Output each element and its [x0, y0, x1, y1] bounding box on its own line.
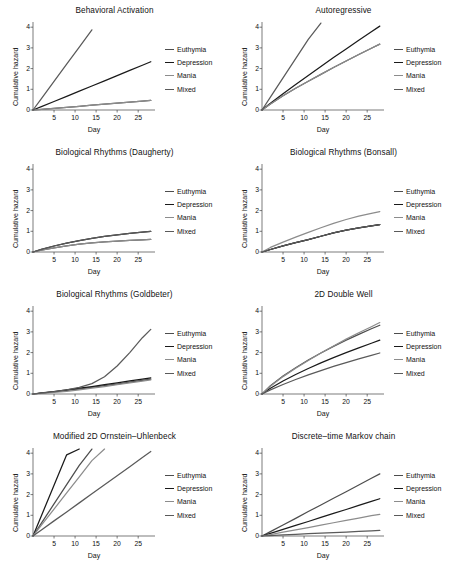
legend-swatch-icon: [165, 62, 174, 63]
x-tick-label: 5: [277, 398, 289, 405]
y-tick-label: 4: [252, 165, 259, 172]
y-tick-label: 2: [252, 349, 259, 356]
legend-swatch-icon: [394, 62, 403, 63]
y-axis-label: Cumulative hazard: [12, 332, 19, 390]
legend-label: Mania: [177, 72, 196, 79]
legend-swatch-icon: [165, 231, 174, 232]
legend-label: Mania: [406, 72, 425, 79]
legend-item-euthymia[interactable]: Euthymia: [394, 330, 441, 337]
legend-swatch-icon: [394, 49, 403, 50]
x-tick-label: 10: [298, 540, 310, 547]
legend-item-mania[interactable]: Mania: [165, 356, 212, 363]
legend-item-euthymia[interactable]: Euthymia: [165, 188, 212, 195]
y-tick-label: 3: [252, 44, 259, 51]
legend-item-mixed[interactable]: Mixed: [394, 512, 441, 519]
series-line: [33, 100, 151, 110]
y-tick-label: 1: [252, 369, 259, 376]
legend: EuthymiaDepressionManiaMixed: [165, 330, 212, 377]
legend-item-depression[interactable]: Depression: [394, 201, 441, 208]
x-axis-label: Day: [33, 268, 155, 275]
series-line: [262, 225, 380, 252]
legend-item-mania[interactable]: Mania: [394, 72, 441, 79]
legend-label: Depression: [177, 201, 212, 208]
x-tick-label: 20: [340, 256, 352, 263]
legend-item-mania[interactable]: Mania: [394, 356, 441, 363]
legend-item-depression[interactable]: Depression: [394, 343, 441, 350]
legend-swatch-icon: [394, 204, 403, 205]
y-axis-label: Cumulative hazard: [12, 474, 19, 532]
legend-item-euthymia[interactable]: Euthymia: [165, 46, 212, 53]
x-tick-label: 20: [111, 540, 123, 547]
legend-swatch-icon: [394, 231, 403, 232]
legend-item-mixed[interactable]: Mixed: [165, 370, 212, 377]
legend-item-euthymia[interactable]: Euthymia: [394, 46, 441, 53]
legend-item-mixed[interactable]: Mixed: [165, 228, 212, 235]
y-tick-label: 3: [23, 186, 30, 193]
legend-item-depression[interactable]: Depression: [165, 201, 212, 208]
legend: EuthymiaDepressionManiaMixed: [394, 188, 441, 235]
legend-item-euthymia[interactable]: Euthymia: [165, 330, 212, 337]
y-tick-label: 3: [23, 470, 30, 477]
x-tick-label: 20: [111, 256, 123, 263]
legend-swatch-icon: [394, 75, 403, 76]
legend-item-mixed[interactable]: Mixed: [165, 512, 212, 519]
x-tick-label: 25: [132, 256, 144, 263]
legend-item-mixed[interactable]: Mixed: [394, 370, 441, 377]
legend-item-depression[interactable]: Depression: [165, 59, 212, 66]
chart-panel: Modified 2D Ornstein–Uhlenbeck0123451015…: [0, 426, 229, 570]
legend-item-mania[interactable]: Mania: [165, 498, 212, 505]
y-tick-label: 4: [252, 307, 259, 314]
legend-item-mania[interactable]: Mania: [394, 214, 441, 221]
legend-item-depression[interactable]: Depression: [394, 485, 441, 492]
legend-swatch-icon: [165, 373, 174, 374]
legend-label: Mania: [177, 214, 196, 221]
y-tick-label: 2: [23, 349, 30, 356]
legend-swatch-icon: [394, 501, 403, 502]
legend: EuthymiaDepressionManiaMixed: [394, 330, 441, 377]
y-tick-label: 4: [252, 449, 259, 456]
chart-panel: 2D Double Well01234510152025DayCumulativ…: [229, 284, 458, 426]
chart-panel: Biological Rhythms (Goldbeter)0123451015…: [0, 284, 229, 426]
legend-label: Mixed: [177, 86, 196, 93]
y-tick-label: 3: [23, 328, 30, 335]
legend-item-depression[interactable]: Depression: [165, 343, 212, 350]
x-tick-label: 10: [298, 398, 310, 405]
legend-item-mixed[interactable]: Mixed: [165, 86, 212, 93]
legend-item-depression[interactable]: Depression: [394, 59, 441, 66]
x-tick-label: 5: [277, 540, 289, 547]
x-tick-label: 20: [340, 540, 352, 547]
legend-item-euthymia[interactable]: Euthymia: [394, 188, 441, 195]
y-tick-label: 3: [252, 328, 259, 335]
x-tick-label: 20: [340, 398, 352, 405]
x-axis-label: Day: [262, 268, 384, 275]
legend-label: Depression: [406, 59, 441, 66]
legend: EuthymiaDepressionManiaMixed: [394, 46, 441, 93]
legend-item-mania[interactable]: Mania: [394, 498, 441, 505]
y-tick-label: 1: [252, 85, 259, 92]
legend-item-mania[interactable]: Mania: [165, 214, 212, 221]
x-tick-label: 15: [90, 114, 102, 121]
x-tick-label: 5: [48, 540, 60, 547]
legend-swatch-icon: [165, 488, 174, 489]
y-tick-label: 4: [23, 165, 30, 172]
legend-item-euthymia[interactable]: Euthymia: [165, 472, 212, 479]
legend-label: Euthymia: [177, 46, 206, 53]
legend-swatch-icon: [394, 373, 403, 374]
y-tick-label: 1: [23, 85, 30, 92]
legend-item-euthymia[interactable]: Euthymia: [394, 472, 441, 479]
legend-item-mixed[interactable]: Mixed: [394, 228, 441, 235]
legend-label: Euthymia: [177, 472, 206, 479]
legend-item-mixed[interactable]: Mixed: [394, 86, 441, 93]
x-tick-label: 15: [319, 114, 331, 121]
x-tick-label: 5: [277, 256, 289, 263]
x-tick-label: 15: [319, 540, 331, 547]
chart-panel: Biological Rhythms (Bonsall)012345101520…: [229, 142, 458, 284]
legend-label: Mania: [406, 214, 425, 221]
legend-label: Mixed: [406, 86, 425, 93]
legend-swatch-icon: [165, 191, 174, 192]
legend-item-mania[interactable]: Mania: [165, 72, 212, 79]
legend-label: Mixed: [177, 512, 196, 519]
series-line: [33, 239, 151, 252]
legend-item-depression[interactable]: Depression: [165, 485, 212, 492]
legend-swatch-icon: [394, 333, 403, 334]
